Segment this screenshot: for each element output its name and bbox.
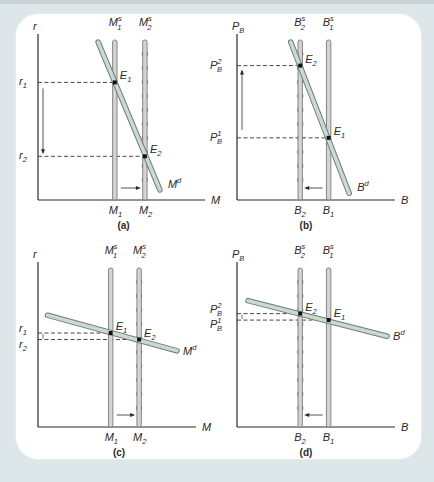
equilibrium-label: E2 <box>144 327 156 342</box>
supply-line-M1s <box>108 268 112 427</box>
x-tick-label-B2s: B2 <box>294 204 306 219</box>
x-tick-label-B1s: B1 <box>323 204 335 219</box>
y-axis-label: r <box>33 20 38 32</box>
money-bond-market-diagram: rMMs1M1Ms2M2MdE1r1E2r2(a)PBBBs2B2Bs1B1Bd… <box>0 0 434 482</box>
demand-curve <box>248 301 387 337</box>
panel-caption: (c) <box>113 447 125 458</box>
panel-b: PBBBs2B2Bs1B1BdE2P2BE1P1B(b) <box>210 14 408 231</box>
panel-d: PBBBs2B2Bs1B1BdE2P2BE1P1B(d) <box>210 242 408 458</box>
supply-label-M1s: Ms1 <box>109 14 122 32</box>
x-tick-label-B2s: B2 <box>294 431 306 446</box>
equilibrium-label: E2 <box>305 53 317 68</box>
level-arrow-head <box>240 70 244 75</box>
supply-line-B1s <box>326 40 330 200</box>
supply-line-B1s <box>326 268 330 427</box>
supply-line-M2s <box>143 40 147 200</box>
level-label: r2 <box>19 149 28 164</box>
panel-a: rMMs1M1Ms2M2MdE1r1E2r2(a) <box>19 14 221 231</box>
equilibrium-label: E1 <box>334 307 346 322</box>
y-axis-label: PB <box>232 20 244 35</box>
x-tick-label-M1s: M1 <box>109 204 122 219</box>
panel-caption: (d) <box>300 447 313 458</box>
x-tick-label-M2s: M2 <box>139 204 153 219</box>
equilibrium-label: E1 <box>120 69 132 84</box>
equilibrium-point <box>137 338 141 342</box>
panel-caption: (a) <box>117 220 129 231</box>
shift-arrow-head <box>304 186 309 190</box>
x-tick-label-M1s: M1 <box>105 431 118 446</box>
y-axis-label: r <box>33 248 38 260</box>
demand-label: Bd <box>357 179 369 193</box>
level-label: P2B <box>210 301 222 318</box>
supply-label-B1s: Bs1 <box>323 14 334 32</box>
level-label: r2 <box>19 338 28 353</box>
equilibrium-point <box>109 331 113 335</box>
demand-label: Bd <box>393 328 405 342</box>
shift-arrow-head <box>130 413 135 417</box>
equilibrium-point <box>113 80 117 84</box>
panel-caption: (b) <box>300 220 313 231</box>
supply-label-B1s: Bs1 <box>323 242 334 260</box>
equilibrium-point <box>298 312 302 316</box>
y-axis-label: PB <box>232 248 244 263</box>
panel-c: rMMs1M1Ms2M2MdE1r1E2r2(c) <box>19 242 212 458</box>
supply-line-B2s <box>298 268 302 427</box>
supply-label-M2s: Ms2 <box>139 14 152 32</box>
x-axis-label: M <box>202 421 212 433</box>
demand-curve <box>98 42 160 190</box>
level-label: r1 <box>19 75 27 90</box>
x-axis-label: M <box>211 194 221 206</box>
equilibrium-label: E1 <box>334 125 346 140</box>
equilibrium-label: E2 <box>150 143 162 158</box>
equilibrium-point <box>143 154 147 158</box>
equilibrium-point <box>327 318 331 322</box>
supply-label-M2s: Ms2 <box>133 242 146 260</box>
supply-label-M1s: Ms1 <box>105 242 118 260</box>
shift-arrow-head <box>304 413 309 417</box>
supply-label-B2s: Bs2 <box>294 14 306 32</box>
supply-line-M1s <box>113 40 117 200</box>
x-axis-label: B <box>401 421 408 433</box>
level-arrow-head <box>41 149 45 154</box>
level-label: r1 <box>19 322 27 337</box>
level-label: P2B <box>210 57 222 74</box>
equilibrium-point <box>298 64 302 68</box>
supply-label-B2s: Bs2 <box>294 242 306 260</box>
demand-label: Md <box>183 343 197 357</box>
level-label: P1B <box>210 129 222 146</box>
level-label: P1B <box>210 316 222 333</box>
demand-label: Md <box>168 176 182 190</box>
x-tick-label-M2s: M2 <box>133 431 147 446</box>
x-tick-label-B1s: B1 <box>323 431 335 446</box>
x-axis-label: B <box>401 194 408 206</box>
equilibrium-point <box>327 136 331 140</box>
shift-arrow-head <box>136 186 141 190</box>
supply-line-M2s <box>137 268 141 427</box>
